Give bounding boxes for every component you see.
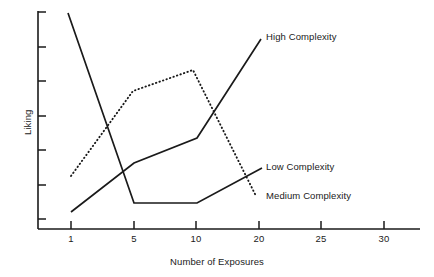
x-tick-label-25: 25 [309,233,333,244]
x-tick-label-1: 1 [59,233,83,244]
series-line-low-complexity [68,13,262,203]
x-tick-label-30: 30 [372,233,396,244]
series-label-high-complexity: High Complexity [266,31,337,42]
series-label-low-complexity: Low Complexity [266,161,334,172]
series-line-high-complexity [71,39,261,212]
y-axis-title: Liking [22,110,33,135]
x-tick-label-10: 10 [184,233,208,244]
x-axis-title: Number of Exposures [0,256,434,267]
x-tick-label-5: 5 [122,233,146,244]
y-axis-ticks [38,12,46,219]
series-label-medium-complexity: Medium Complexity [266,190,351,201]
chart-figure: 1 5 10 20 25 30 High Complexity Low Comp… [0,0,434,277]
x-axis-ticks [71,221,384,229]
x-tick-label-20: 20 [247,233,271,244]
